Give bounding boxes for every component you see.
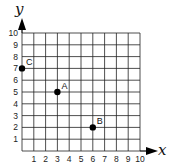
x-tick-label: 8	[114, 154, 119, 163]
y-tick-label: 6	[13, 75, 18, 85]
y-tick-label: 1	[13, 134, 18, 144]
tick-labels: 1234567891012345678910	[9, 28, 145, 163]
point-label-c: C	[26, 57, 33, 67]
y-tick-label: 9	[13, 40, 18, 50]
point-c	[19, 65, 25, 71]
x-tick-label: 2	[43, 154, 48, 163]
x-tick-label: 1	[31, 154, 36, 163]
y-tick-label: 7	[13, 63, 18, 73]
y-tick-label: 4	[13, 99, 18, 109]
point-label-a: A	[61, 81, 67, 91]
x-axis-label: x	[158, 141, 167, 159]
y-tick-label: 2	[13, 122, 18, 132]
x-tick-label: 7	[102, 154, 107, 163]
x-axis-arrow-icon	[146, 147, 158, 155]
y-tick-label: 5	[13, 87, 18, 97]
y-tick-label: 10	[9, 28, 19, 38]
x-tick-label: 9	[126, 154, 131, 163]
point-label-b: B	[97, 116, 103, 126]
x-tick-label: 6	[90, 154, 95, 163]
grid-lines	[22, 33, 140, 151]
x-tick-label: 4	[67, 154, 72, 163]
axes	[18, 18, 158, 155]
coordinate-grid: 1234567891012345678910 ABC x y	[0, 0, 174, 163]
y-axis-arrow-icon	[18, 18, 26, 30]
y-tick-label: 8	[13, 52, 18, 62]
point-b	[90, 124, 96, 130]
point-a	[54, 89, 60, 95]
x-tick-label: 5	[79, 154, 84, 163]
x-tick-label: 10	[135, 154, 145, 163]
x-tick-label: 3	[55, 154, 60, 163]
y-tick-label: 3	[13, 111, 18, 121]
y-axis-label: y	[14, 0, 24, 18]
